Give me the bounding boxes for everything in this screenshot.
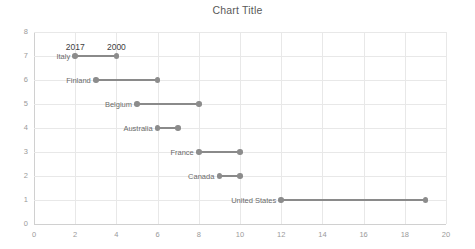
x-axis-tick-label: 2 bbox=[63, 230, 87, 239]
y-axis-tick-label: 2 bbox=[4, 171, 28, 180]
dumbbell-marker-end[interactable] bbox=[237, 173, 243, 179]
dumbbell-marker-end[interactable] bbox=[155, 77, 161, 83]
dumbbell-row-label: France bbox=[170, 148, 198, 157]
dumbbell-marker-end[interactable] bbox=[175, 125, 181, 131]
x-axis-line bbox=[34, 224, 446, 225]
y-axis-tick-label: 4 bbox=[4, 123, 28, 132]
dumbbell-row-label: Canada bbox=[188, 172, 219, 181]
dumbbell-marker-end[interactable] bbox=[237, 149, 243, 155]
y-axis-tick-label: 5 bbox=[4, 99, 28, 108]
series-annotation: 2017 bbox=[66, 42, 85, 52]
plot-area: ItalyFinlandBelgiumAustraliaFranceCanada… bbox=[34, 32, 446, 224]
x-axis-tick-label: 14 bbox=[310, 230, 334, 239]
y-axis-tick-label: 0 bbox=[4, 219, 28, 228]
x-axis-tick-label: 6 bbox=[146, 230, 170, 239]
y-axis-tick-label: 7 bbox=[4, 51, 28, 60]
dumbbell-connector bbox=[137, 103, 199, 104]
dumbbell-row-label: Australia bbox=[123, 124, 157, 133]
dumbbell-marker-end[interactable] bbox=[423, 197, 429, 203]
chart-title: Chart Title bbox=[0, 4, 475, 16]
dumbbell-connector bbox=[281, 199, 425, 200]
x-axis-tick-label: 8 bbox=[187, 230, 211, 239]
gridline-horizontal bbox=[34, 32, 446, 33]
x-axis-tick-label: 0 bbox=[22, 230, 46, 239]
chart-container: Chart Title ItalyFinlandBelgiumAustralia… bbox=[0, 0, 475, 249]
x-axis-tick-label: 12 bbox=[269, 230, 293, 239]
x-axis-tick-label: 20 bbox=[434, 230, 458, 239]
dumbbell-marker-end[interactable] bbox=[196, 101, 202, 107]
y-axis-tick-label: 8 bbox=[4, 27, 28, 36]
dumbbell-row-label: Finland bbox=[66, 76, 96, 85]
series-annotation: 2000 bbox=[107, 42, 126, 52]
x-axis-tick-label: 4 bbox=[104, 230, 128, 239]
dumbbell-row-label: Italy bbox=[56, 52, 75, 61]
gridline-vertical bbox=[446, 32, 447, 224]
y-axis-tick-label: 3 bbox=[4, 147, 28, 156]
x-axis-tick-label: 10 bbox=[228, 230, 252, 239]
x-axis-tick-label: 16 bbox=[352, 230, 376, 239]
y-axis-tick-label: 6 bbox=[4, 75, 28, 84]
gridline-horizontal bbox=[34, 104, 446, 105]
dumbbell-connector bbox=[96, 79, 158, 80]
dumbbell-row-label: Belgium bbox=[105, 100, 137, 109]
dumbbell-connector bbox=[199, 151, 240, 152]
dumbbell-row-label: United States bbox=[231, 196, 281, 205]
gridline-horizontal bbox=[34, 128, 446, 129]
y-axis-tick-label: 1 bbox=[4, 195, 28, 204]
x-axis-tick-label: 18 bbox=[393, 230, 417, 239]
dumbbell-connector bbox=[75, 55, 116, 56]
dumbbell-marker-end[interactable] bbox=[114, 53, 120, 59]
